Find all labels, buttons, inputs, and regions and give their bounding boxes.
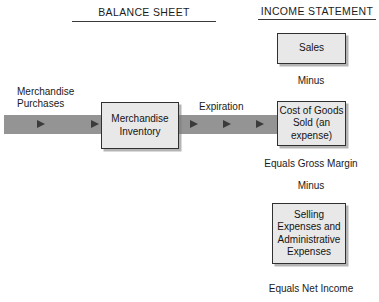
caption-equals-gross-margin: Equals Gross Margin bbox=[251, 158, 371, 169]
sales-box-label: Sales bbox=[299, 42, 324, 55]
flow-arrow-icon bbox=[223, 120, 231, 128]
flow-arrow-icon bbox=[37, 120, 45, 128]
balance-sheet-header: BALANCE SHEET bbox=[72, 6, 216, 18]
caption-minus-above-expenses: Minus bbox=[251, 180, 371, 191]
expiration-label: Expiration bbox=[199, 101, 243, 113]
income-statement-header: INCOME STATEMENT bbox=[258, 5, 376, 17]
cost-of-goods-sold-box: Cost of Goods Sold (an expense) bbox=[277, 101, 346, 146]
selling-administrative-expenses-box-label: Selling Expenses and Administrative Expe… bbox=[273, 209, 345, 259]
flow-arrow-icon bbox=[190, 120, 198, 128]
sales-box: Sales bbox=[277, 33, 346, 64]
caption-equals-net-income: Equals Net Income bbox=[251, 283, 371, 294]
balance-sheet-underline bbox=[72, 21, 216, 22]
income-statement-underline bbox=[258, 19, 376, 20]
merchandise-purchases-label: Merchandise Purchases bbox=[17, 86, 74, 110]
merchandise-inventory-box-label: Merchandise Inventory bbox=[102, 113, 178, 138]
diagram-canvas: BALANCE SHEET INCOME STATEMENT Merchandi… bbox=[0, 0, 379, 302]
clipped-top-text bbox=[60, 0, 360, 1]
merchandise-inventory-box: Merchandise Inventory bbox=[101, 102, 179, 149]
selling-administrative-expenses-box: Selling Expenses and Administrative Expe… bbox=[272, 203, 346, 264]
cost-of-goods-sold-box-label: Cost of Goods Sold (an expense) bbox=[278, 105, 345, 143]
caption-minus-above-cogs: Minus bbox=[251, 75, 371, 86]
flow-arrow-icon bbox=[256, 120, 264, 128]
flow-arrow-icon bbox=[91, 120, 99, 128]
